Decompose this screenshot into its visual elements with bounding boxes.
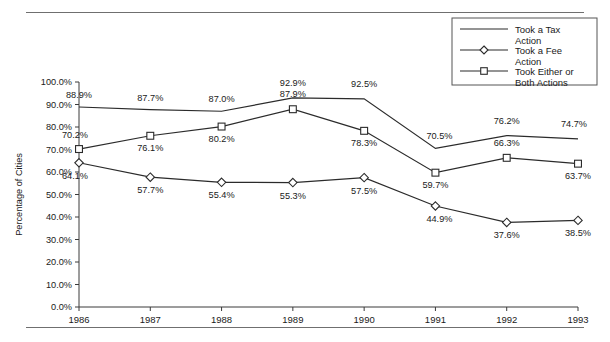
data-point-label: 57.5% <box>351 186 377 196</box>
chart-figure: 0.0%10.0%20.0%30.0%40.0%50.0%60.0%70.0%8… <box>0 0 610 342</box>
data-point-marker-diamond <box>146 173 154 181</box>
data-point-marker-square <box>289 106 296 113</box>
data-point-label: 55.4% <box>209 190 235 200</box>
x-tick-label: 1993 <box>567 314 588 325</box>
data-point-label: 92.9% <box>280 78 306 88</box>
y-tick-label: 70.0% <box>46 145 72 155</box>
data-point-marker-diamond <box>360 173 368 181</box>
y-tick-label: 100.0% <box>41 77 72 87</box>
legend-label-line2: Both Actions <box>515 77 568 88</box>
x-tick-label: 1987 <box>140 314 161 325</box>
x-axis: 19861987198819891990199119921993 <box>68 307 588 325</box>
data-point-label: 87.7% <box>137 93 163 103</box>
y-tick-label: 50.0% <box>46 190 72 200</box>
x-tick-label: 1988 <box>211 314 232 325</box>
legend: Took a TaxActionTook a FeeActionTook Eit… <box>452 18 597 88</box>
data-point-label: 88.9% <box>66 90 92 100</box>
data-point-marker-diamond <box>289 178 297 186</box>
legend-label-line1: Took a Tax <box>515 24 560 35</box>
data-point-label: 38.5% <box>565 228 591 238</box>
data-point-label: 63.7% <box>565 171 591 181</box>
data-point-label: 55.3% <box>280 191 306 201</box>
data-point-label: 80.2% <box>209 134 235 144</box>
data-point-marker-diamond <box>574 216 582 224</box>
data-point-label: 37.6% <box>494 230 520 240</box>
x-tick-label: 1991 <box>425 314 446 325</box>
data-point-marker-diamond <box>503 218 511 226</box>
data-point-marker-square <box>503 154 510 161</box>
data-point-marker-square <box>147 132 154 139</box>
data-point-marker-square <box>361 127 368 134</box>
data-point-label: 76.2% <box>494 116 520 126</box>
data-point-marker-square <box>218 123 225 130</box>
series-3: 70.2%76.1%80.2%87.9%78.3%59.7%66.3%63.7% <box>62 89 591 189</box>
data-point-label: 59.7% <box>422 180 448 190</box>
data-point-label: 87.0% <box>209 94 235 104</box>
data-point-label: 87.9% <box>280 89 306 99</box>
data-point-marker-square <box>76 146 83 153</box>
data-point-label: 70.2% <box>62 130 88 140</box>
series-2: 64.1%57.7%55.4%55.3%57.5%44.9%37.6%38.5% <box>62 159 591 241</box>
data-point-marker-diamond <box>480 46 488 54</box>
y-tick-label: 20.0% <box>46 257 72 267</box>
data-point-label: 74.7% <box>561 119 587 129</box>
data-point-label: 57.7% <box>137 185 163 195</box>
data-point-marker-square <box>575 160 582 167</box>
y-tick-label: 30.0% <box>46 235 72 245</box>
data-point-label: 76.1% <box>137 143 163 153</box>
data-point-marker-square <box>432 169 439 176</box>
data-point-label: 64.1% <box>62 171 88 181</box>
y-axis-title: Percentage of Cities <box>14 153 24 236</box>
data-point-label: 78.3% <box>351 138 377 148</box>
legend-label-line1: Took a Fee <box>515 45 562 56</box>
x-tick-label: 1986 <box>68 314 89 325</box>
line-chart: 0.0%10.0%20.0%30.0%40.0%50.0%60.0%70.0%8… <box>0 0 610 342</box>
y-tick-label: 10.0% <box>46 280 72 290</box>
y-axis: 0.0%10.0%20.0%30.0%40.0%50.0%60.0%70.0%8… <box>41 77 79 312</box>
data-point-label: 44.9% <box>426 214 452 224</box>
data-point-label: 70.5% <box>426 131 452 141</box>
data-point-label: 92.5% <box>351 79 377 89</box>
y-tick-label: 90.0% <box>46 100 72 110</box>
data-point-marker-diamond <box>75 159 83 167</box>
data-point-marker-square <box>481 68 488 75</box>
y-tick-label: 0.0% <box>51 302 72 312</box>
x-tick-label: 1992 <box>496 314 517 325</box>
data-point-marker-diamond <box>217 178 225 186</box>
x-tick-label: 1989 <box>282 314 303 325</box>
legend-label-line1: Took Either or <box>515 66 574 77</box>
data-point-marker-diamond <box>431 202 439 210</box>
y-tick-label: 40.0% <box>46 212 72 222</box>
data-point-label: 66.3% <box>494 138 520 148</box>
x-tick-label: 1990 <box>354 314 375 325</box>
